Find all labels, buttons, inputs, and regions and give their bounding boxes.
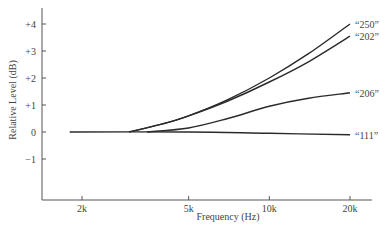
- y-tick-label: +4: [25, 19, 36, 30]
- axes: +4+3+2+10−12k5k10k20k: [25, 8, 372, 214]
- frequency-response-chart: +4+3+2+10−12k5k10k20k “250”“202”“206”“11…: [0, 0, 385, 236]
- series-label: “250”: [355, 19, 379, 30]
- y-tick-label: +3: [25, 46, 36, 57]
- y-tick-label: 0: [31, 127, 36, 138]
- y-axis-title: Relative Level (dB): [7, 60, 19, 139]
- y-tick-label: +1: [25, 100, 36, 111]
- x-tick-label: 10k: [262, 203, 277, 214]
- series-label: “202”: [355, 31, 379, 42]
- x-tick-label: 20k: [343, 203, 358, 214]
- series-label: “111”: [355, 130, 378, 141]
- y-tick-label: +2: [25, 73, 36, 84]
- y-tick-label: −1: [25, 154, 36, 165]
- series-curve: [129, 36, 350, 132]
- series-curve: [70, 132, 350, 135]
- series-curve: [147, 93, 350, 132]
- x-tick-label: 5k: [184, 203, 194, 214]
- curves: [70, 24, 350, 135]
- x-axis-title: Frequency (Hz): [196, 211, 259, 223]
- x-tick-label: 2k: [77, 203, 87, 214]
- series-label: “206”: [355, 88, 379, 99]
- series-labels: “250”“202”“206”“111”: [355, 19, 379, 141]
